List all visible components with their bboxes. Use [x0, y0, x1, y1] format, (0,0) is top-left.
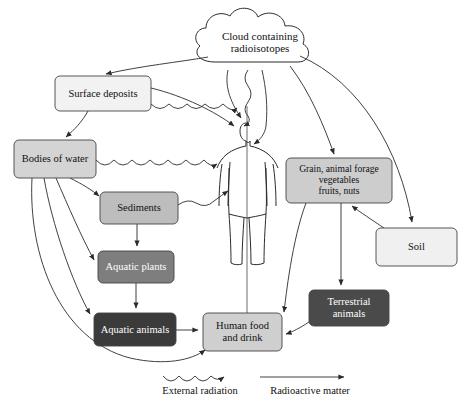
edge-water-to-aqanimals: [44, 178, 90, 314]
node-terrestrial-animals-box[interactable]: [309, 290, 389, 326]
diagram-vector-layer: [0, 0, 471, 413]
node-human-food-box[interactable]: [203, 313, 282, 351]
legend-radioactive-matter-label: Radioactive matter: [245, 385, 375, 396]
human-body-outline: [217, 106, 278, 313]
node-bodies-of-water-box[interactable]: [14, 140, 96, 178]
edge-grain-to-food: [284, 203, 306, 312]
legend-wavy-arrow: [163, 376, 224, 381]
edge-cloud-to-human-2: [254, 70, 267, 144]
edge-water-to-human-wavy: [96, 160, 217, 165]
edge-sediments-to-human-wavy: [178, 191, 228, 206]
edge-surface-to-water: [66, 111, 88, 137]
node-aquatic-plants-box[interactable]: [98, 251, 174, 283]
edge-cloud-to-grain: [290, 66, 334, 154]
node-soil-box[interactable]: [376, 228, 457, 266]
node-grain-box[interactable]: [286, 158, 392, 203]
edge-cloud-to-human-1: [227, 70, 241, 118]
node-sediments-box[interactable]: [100, 192, 178, 224]
edge-cloud-to-surface: [106, 57, 208, 74]
legend-external-radiation-label: External radiation: [140, 385, 260, 396]
edge-terrestrial-to-food: [286, 322, 309, 334]
edge-surface-to-human-wavy: [151, 104, 237, 110]
edge-cloud-to-human-wavy: [244, 70, 251, 126]
edge-soil-to-grain: [352, 206, 384, 228]
edge-water-to-sediments: [70, 178, 99, 196]
edge-surface-to-human-matter: [151, 88, 234, 126]
node-surface-deposits-box[interactable]: [55, 76, 151, 111]
diagram-canvas: Cloud containing radioisotopes Surface d…: [0, 0, 471, 413]
node-aquatic-animals-box[interactable]: [94, 313, 176, 346]
node-cloud-shape[interactable]: [196, 8, 309, 62]
